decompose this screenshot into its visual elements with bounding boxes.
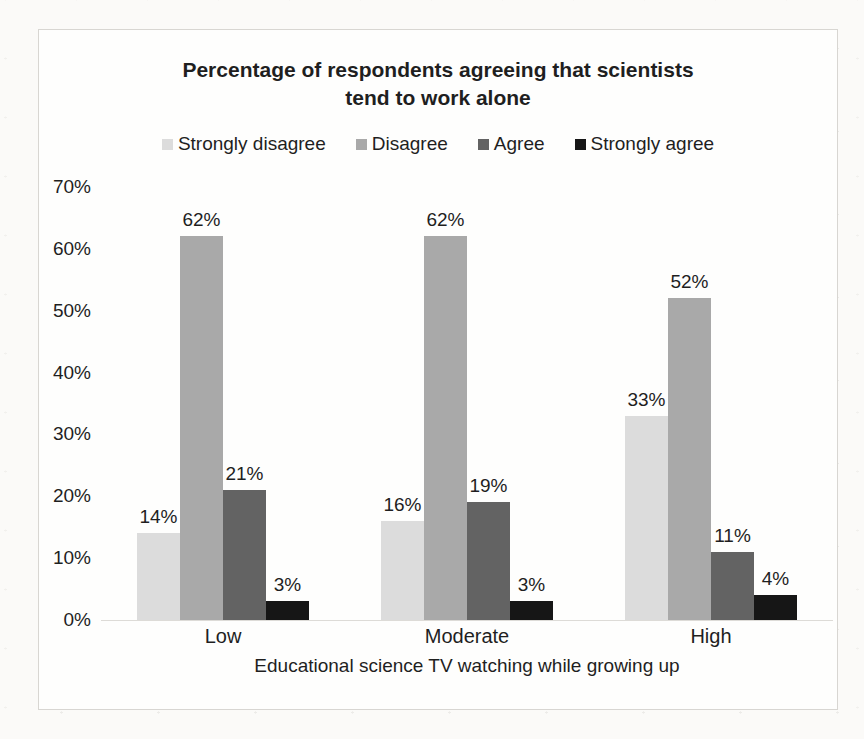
legend-item-4: Strongly agree bbox=[575, 133, 715, 155]
bar: 62% bbox=[180, 236, 223, 620]
bar: 19% bbox=[467, 502, 510, 620]
bar: 3% bbox=[266, 601, 309, 620]
bar-value-label: 16% bbox=[383, 494, 421, 516]
bar: 14% bbox=[137, 533, 180, 620]
legend-label: Strongly agree bbox=[591, 133, 715, 155]
legend-item-2: Disagree bbox=[356, 133, 448, 155]
y-tick-label: 60% bbox=[39, 238, 91, 260]
legend-swatch-icon bbox=[575, 139, 586, 150]
y-axis: 0%10%20%30%40%50%60%70% bbox=[39, 187, 91, 620]
bar-value-label: 52% bbox=[670, 271, 708, 293]
bar-value-label: 19% bbox=[469, 475, 507, 497]
legend-item-3: Agree bbox=[478, 133, 545, 155]
x-axis-title: Educational science TV watching while gr… bbox=[101, 655, 833, 677]
bar: 33% bbox=[625, 416, 668, 620]
bar: 52% bbox=[668, 298, 711, 620]
bar-value-label: 33% bbox=[627, 389, 665, 411]
scanned-page: Percentage of respondents agreeing that … bbox=[0, 0, 864, 739]
y-tick-label: 20% bbox=[39, 485, 91, 507]
legend-swatch-icon bbox=[478, 139, 489, 150]
plot-region: 14%62%21%3%16%62%19%3%33%52%11%4% bbox=[101, 187, 833, 621]
legend-swatch-icon bbox=[162, 139, 173, 150]
bar-value-label: 3% bbox=[274, 574, 301, 596]
bar-group-moderate: 16%62%19%3% bbox=[345, 187, 589, 620]
bar-value-label: 21% bbox=[225, 463, 263, 485]
chart-frame: Percentage of respondents agreeing that … bbox=[38, 29, 838, 710]
y-tick-label: 10% bbox=[39, 547, 91, 569]
legend-label: Disagree bbox=[372, 133, 448, 155]
bar: 3% bbox=[510, 601, 553, 620]
bar-value-label: 4% bbox=[762, 568, 789, 590]
y-tick-label: 70% bbox=[39, 176, 91, 198]
bar-value-label: 14% bbox=[139, 506, 177, 528]
legend-label: Strongly disagree bbox=[178, 133, 326, 155]
x-category-label: High bbox=[589, 625, 833, 648]
x-axis-labels: LowModerateHigh bbox=[101, 625, 833, 648]
y-tick-label: 0% bbox=[39, 609, 91, 631]
bar-group-high: 33%52%11%4% bbox=[589, 187, 833, 620]
bar: 11% bbox=[711, 552, 754, 620]
bar: 21% bbox=[223, 490, 266, 620]
x-category-label: Moderate bbox=[345, 625, 589, 648]
chart-legend: Strongly disagreeDisagreeAgreeStrongly a… bbox=[39, 133, 837, 155]
bar-value-label: 62% bbox=[182, 209, 220, 231]
bar-value-label: 11% bbox=[714, 525, 751, 547]
y-tick-label: 50% bbox=[39, 300, 91, 322]
legend-item-1: Strongly disagree bbox=[162, 133, 326, 155]
x-category-label: Low bbox=[101, 625, 345, 648]
bar: 16% bbox=[381, 521, 424, 620]
bar: 62% bbox=[424, 236, 467, 620]
y-tick-label: 40% bbox=[39, 362, 91, 384]
y-tick-label: 30% bbox=[39, 423, 91, 445]
legend-swatch-icon bbox=[356, 139, 367, 150]
bar-value-label: 62% bbox=[426, 209, 464, 231]
plot-area: 0%10%20%30%40%50%60%70% 14%62%21%3%16%62… bbox=[39, 187, 837, 620]
bar-value-label: 3% bbox=[518, 574, 545, 596]
legend-label: Agree bbox=[494, 133, 545, 155]
chart-title: Percentage of respondents agreeing that … bbox=[39, 56, 837, 113]
bar-group-low: 14%62%21%3% bbox=[101, 187, 345, 620]
bar: 4% bbox=[754, 595, 797, 620]
